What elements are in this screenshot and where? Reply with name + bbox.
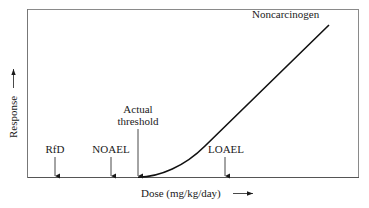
x-axis-label: Dose (mg/kg/day) [141, 187, 221, 200]
dose-response-diagram: Noncarcinogen RfD NOAEL Actual threshold… [0, 0, 369, 208]
threshold-label-line1: Actual [123, 103, 152, 115]
plot-frame [28, 10, 359, 178]
curve-label: Noncarcinogen [252, 8, 320, 20]
rfd-label: RfD [46, 143, 65, 155]
noael-label: NOAEL [92, 143, 130, 155]
loael-label: LOAEL [208, 143, 244, 155]
threshold-label-line2: threshold [118, 115, 159, 127]
y-axis-label: Response [7, 96, 19, 138]
